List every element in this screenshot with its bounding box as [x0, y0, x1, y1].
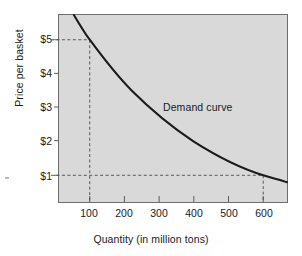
x-tick-label-600: 600: [247, 208, 281, 218]
demand-curve-path: [74, 15, 287, 182]
x-tick-label-500: 500: [212, 208, 246, 218]
y-tick-label-1: $1: [26, 171, 52, 181]
y-tick-label-4: $4: [26, 68, 52, 78]
x-axis-ticks: [90, 196, 263, 202]
plot-area: Demand curve: [58, 14, 288, 203]
demand-curve-annotation: Demand curve: [163, 101, 232, 113]
scan-artifact-speck: [5, 177, 9, 179]
y-axis-ticks: [54, 40, 59, 176]
demand-curve-figure: Price per basket $5 $4 $3 $2 $1 100 200 …: [0, 0, 302, 256]
y-tick-label-5: $5: [26, 34, 52, 44]
x-tick-label-300: 300: [142, 208, 176, 218]
x-tick-label-400: 400: [177, 208, 211, 218]
guide-line-price-5-quantity-100: [51, 40, 90, 202]
x-tick-label-200: 200: [107, 208, 141, 218]
x-tick-label-100: 100: [72, 208, 106, 218]
y-tick-label-3: $3: [26, 102, 52, 112]
y-tick-label-2: $2: [26, 136, 52, 146]
x-axis-title: Quantity (in million tons): [0, 233, 302, 245]
guide-line-price-1-quantity-600: [51, 175, 263, 202]
y-axis-title: Price per basket: [13, 3, 25, 133]
